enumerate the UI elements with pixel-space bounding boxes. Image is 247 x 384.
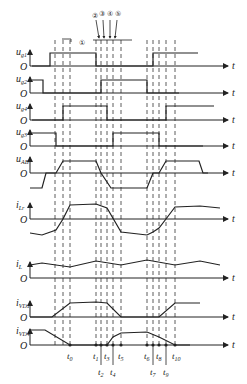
annotation-4: ④ bbox=[107, 10, 113, 18]
annotation-1: ① bbox=[79, 39, 85, 47]
axis-t-label: t bbox=[232, 213, 235, 224]
dashed-time-lines bbox=[55, 40, 175, 348]
signal-label-iVD1: iVD1 bbox=[16, 297, 30, 309]
waveforms bbox=[30, 53, 220, 345]
annotation-2: ② bbox=[92, 12, 98, 20]
axis-t-label: t bbox=[232, 60, 235, 71]
waveform-uAB bbox=[30, 161, 208, 188]
annotation-region-1 bbox=[62, 20, 132, 42]
signal-label-ug3: ug3 bbox=[16, 126, 27, 138]
origin-label: O bbox=[20, 168, 27, 179]
time-label-t0: t0 bbox=[67, 351, 73, 362]
time-marks: t0t1t2t3t4t5t6t7t8t9t10 bbox=[67, 343, 181, 378]
waveform-iVD1 bbox=[30, 302, 200, 317]
signal-label-iLr: iLr bbox=[16, 199, 25, 211]
origin-label: O bbox=[20, 312, 27, 323]
waveform-ug1 bbox=[32, 53, 198, 66]
time-mark-dot bbox=[145, 343, 148, 346]
origin-label: O bbox=[20, 61, 27, 72]
axis-t-label: t bbox=[232, 140, 235, 151]
time-label-t5: t5 bbox=[118, 351, 124, 362]
origin-label: O bbox=[20, 115, 27, 126]
origin-label: O bbox=[20, 141, 27, 152]
axis-t-label: t bbox=[232, 87, 235, 98]
time-mark-dot bbox=[119, 343, 122, 346]
axis-t-label: t bbox=[232, 272, 235, 283]
annotation-3: ③ bbox=[99, 10, 105, 18]
origin-label: O bbox=[20, 340, 27, 351]
time-mark-dot bbox=[173, 343, 176, 346]
annotation-5: ⑤ bbox=[115, 10, 121, 18]
time-label-t2: t2 bbox=[98, 367, 104, 378]
time-mark-dot bbox=[105, 343, 108, 346]
waveform-iL bbox=[30, 260, 220, 267]
time-label-t10: t10 bbox=[172, 351, 181, 362]
origin-label: O bbox=[20, 88, 27, 99]
time-mark-dot bbox=[94, 343, 97, 346]
signal-label-ug1: ug1 bbox=[16, 46, 27, 58]
axis-t-label: t bbox=[232, 167, 235, 178]
signal-labels: tOug1tOug2tOug4tOug3tOuABtOiLrtOiLtOiVD1… bbox=[16, 46, 235, 351]
waveform-canvas: ① ② ③ ④ ⑤ tOug1tOug2tOug4tOug3tOuABtOiLr… bbox=[0, 0, 247, 384]
time-label-t7: t7 bbox=[150, 367, 157, 378]
origin-label: O bbox=[20, 273, 27, 284]
time-mark-dot bbox=[68, 343, 71, 346]
time-label-t8: t8 bbox=[156, 351, 162, 362]
time-label-t9: t9 bbox=[163, 367, 169, 378]
time-label-t6: t6 bbox=[144, 351, 150, 362]
origin-label: O bbox=[20, 214, 27, 225]
waveform-ug4 bbox=[32, 106, 214, 120]
time-label-t1: t1 bbox=[93, 351, 99, 362]
axis-t-label: t bbox=[232, 311, 235, 322]
waveform-ug3 bbox=[32, 133, 203, 146]
time-label-t4: t4 bbox=[110, 367, 116, 378]
circled-annotations: ① ② ③ ④ ⑤ bbox=[79, 10, 121, 47]
waveform-ug2 bbox=[32, 80, 179, 93]
signal-label-uAB: uAB bbox=[16, 153, 29, 165]
timing-diagram: ① ② ③ ④ ⑤ tOug1tOug2tOug4tOug3tOuABtOiLr… bbox=[0, 0, 247, 384]
axes bbox=[30, 50, 228, 345]
axis-t-label: t bbox=[232, 339, 235, 350]
signal-label-iVD4: iVD4 bbox=[16, 325, 30, 337]
signal-label-ug2: ug2 bbox=[16, 73, 27, 85]
signal-label-ug4: ug4 bbox=[16, 100, 27, 112]
signal-label-iL: iL bbox=[16, 258, 23, 270]
time-label-t3: t3 bbox=[104, 351, 110, 362]
axis-t-label: t bbox=[232, 114, 235, 125]
time-mark-dot bbox=[157, 343, 160, 346]
